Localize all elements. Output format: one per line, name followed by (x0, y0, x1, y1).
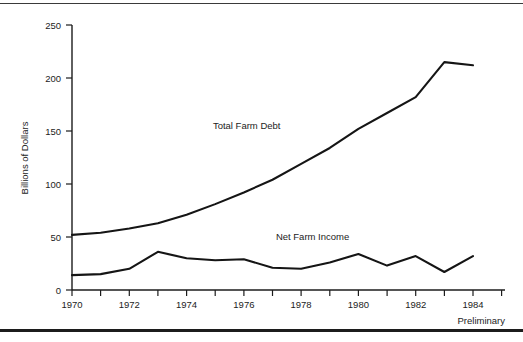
total-farm-debt-line (72, 62, 473, 235)
net-farm-income-label: Net Farm Income (276, 231, 349, 242)
x-tick-label-1984: 1984 (462, 299, 483, 310)
series-lines-group (72, 62, 473, 275)
y-tick-label-50: 50 (50, 232, 61, 243)
y-tick-label-100: 100 (45, 179, 61, 190)
farm-debt-income-line-chart: 0 50 100 150 200 250 Billions of Dollars (0, 0, 523, 342)
net-farm-income-line (72, 252, 473, 275)
x-tick-label-1976: 1976 (233, 299, 254, 310)
preliminary-footnote: Preliminary (457, 315, 505, 326)
x-axis-group: 1970 1972 1974 1976 1978 1980 1982 1984 (61, 290, 505, 310)
y-tick-label-0: 0 (56, 285, 61, 296)
y-axis-title: Billions of Dollars (19, 121, 30, 194)
x-tick-label-1980: 1980 (348, 299, 369, 310)
x-tick-label-1970: 1970 (61, 299, 82, 310)
total-farm-debt-label: Total Farm Debt (213, 120, 281, 131)
y-tick-label-150: 150 (45, 126, 61, 137)
y-tick-label-200: 200 (45, 73, 61, 84)
x-axis-ticks (72, 290, 502, 296)
x-tick-label-1978: 1978 (291, 299, 312, 310)
chart-page: 0 50 100 150 200 250 Billions of Dollars (0, 0, 523, 342)
series-annotations-group: Total Farm Debt Net Farm Income (213, 120, 349, 242)
x-tick-label-1982: 1982 (405, 299, 426, 310)
y-axis-tick-labels: 0 50 100 150 200 250 (45, 20, 61, 296)
y-axis-group: 0 50 100 150 200 250 Billions of Dollars (19, 20, 72, 296)
x-tick-label-1974: 1974 (176, 299, 197, 310)
x-tick-label-1972: 1972 (119, 299, 140, 310)
y-axis-ticks (66, 25, 72, 290)
bottom-divider-rule (0, 329, 523, 332)
y-tick-label-250: 250 (45, 20, 61, 31)
x-axis-tick-labels: 1970 1972 1974 1976 1978 1980 1982 1984 (61, 299, 483, 310)
